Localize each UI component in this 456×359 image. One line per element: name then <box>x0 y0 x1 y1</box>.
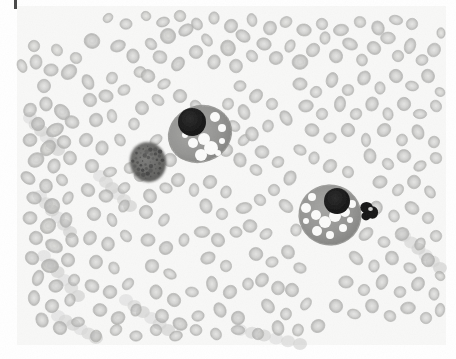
corner-tick-mark <box>14 0 17 9</box>
film-grain-overlay <box>0 0 456 359</box>
blood-smear-image <box>0 0 456 359</box>
micrograph-figure <box>0 0 456 359</box>
